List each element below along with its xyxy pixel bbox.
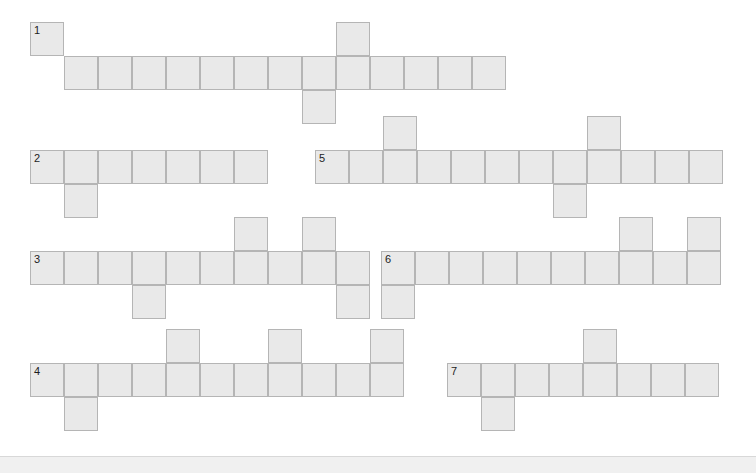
- cell-number-7: 7: [451, 365, 457, 377]
- crossword-cell[interactable]: [370, 363, 404, 397]
- bottom-status-bar: [0, 456, 756, 473]
- crossword-cell[interactable]: [417, 150, 451, 184]
- crossword-cell[interactable]: [132, 150, 166, 184]
- crossword-cell[interactable]: [585, 251, 619, 285]
- crossword-cell[interactable]: [653, 251, 687, 285]
- crossword-cell[interactable]: [438, 56, 472, 90]
- crossword-cell[interactable]: [583, 329, 617, 363]
- crossword-cell[interactable]: 2: [30, 150, 64, 184]
- crossword-cell[interactable]: [234, 150, 268, 184]
- crossword-cell[interactable]: [689, 150, 723, 184]
- crossword-cell[interactable]: [302, 90, 336, 124]
- cell-number-6: 6: [385, 253, 391, 265]
- crossword-cell[interactable]: [302, 217, 336, 251]
- crossword-cell[interactable]: [64, 397, 98, 431]
- crossword-cell[interactable]: [553, 150, 587, 184]
- crossword-cell[interactable]: [200, 150, 234, 184]
- crossword-cell[interactable]: [336, 56, 370, 90]
- crossword-cell[interactable]: [481, 397, 515, 431]
- crossword-cell[interactable]: [64, 363, 98, 397]
- crossword-cell[interactable]: [336, 363, 370, 397]
- crossword-cell[interactable]: 4: [30, 363, 64, 397]
- crossword-cell[interactable]: [302, 251, 336, 285]
- crossword-cell[interactable]: [64, 184, 98, 218]
- crossword-cell[interactable]: [98, 251, 132, 285]
- crossword-cell[interactable]: [381, 285, 415, 319]
- crossword-cell[interactable]: [132, 285, 166, 319]
- crossword-cell[interactable]: [234, 56, 268, 90]
- crossword-cell[interactable]: [64, 150, 98, 184]
- crossword-cell[interactable]: [617, 363, 651, 397]
- crossword-cell[interactable]: [383, 150, 417, 184]
- cell-number-5: 5: [319, 152, 325, 164]
- crossword-grid-canvas[interactable]: 1234567: [0, 0, 756, 456]
- crossword-cell[interactable]: 1: [30, 22, 64, 56]
- crossword-cell[interactable]: [449, 251, 483, 285]
- crossword-cell[interactable]: [166, 150, 200, 184]
- crossword-cell[interactable]: [583, 363, 617, 397]
- crossword-cell[interactable]: [370, 329, 404, 363]
- crossword-cell[interactable]: 5: [315, 150, 349, 184]
- crossword-cell[interactable]: [234, 363, 268, 397]
- crossword-cell[interactable]: [98, 56, 132, 90]
- crossword-cell[interactable]: [485, 150, 519, 184]
- crossword-cell[interactable]: [483, 251, 517, 285]
- crossword-cell[interactable]: [64, 251, 98, 285]
- crossword-cell[interactable]: [587, 116, 621, 150]
- crossword-cell[interactable]: [268, 363, 302, 397]
- crossword-cell[interactable]: [302, 56, 336, 90]
- crossword-cell[interactable]: [64, 56, 98, 90]
- crossword-cell[interactable]: [234, 251, 268, 285]
- crossword-cell[interactable]: 7: [447, 363, 481, 397]
- crossword-cell[interactable]: [166, 251, 200, 285]
- crossword-cell[interactable]: [132, 251, 166, 285]
- crossword-cell[interactable]: [515, 363, 549, 397]
- crossword-cell[interactable]: [687, 251, 721, 285]
- crossword-cell[interactable]: [132, 56, 166, 90]
- crossword-cell[interactable]: [370, 56, 404, 90]
- crossword-cell[interactable]: [349, 150, 383, 184]
- crossword-cell[interactable]: [651, 363, 685, 397]
- crossword-app: 1234567: [0, 0, 756, 473]
- crossword-cell[interactable]: [517, 251, 551, 285]
- crossword-cell[interactable]: [619, 217, 653, 251]
- crossword-cell[interactable]: [98, 150, 132, 184]
- crossword-cell[interactable]: [268, 251, 302, 285]
- crossword-cell[interactable]: 3: [30, 251, 64, 285]
- crossword-cell[interactable]: [268, 56, 302, 90]
- crossword-cell[interactable]: [98, 363, 132, 397]
- crossword-cell[interactable]: [687, 217, 721, 251]
- crossword-cell[interactable]: [415, 251, 449, 285]
- crossword-cell[interactable]: [655, 150, 689, 184]
- crossword-cell[interactable]: [587, 150, 621, 184]
- crossword-cell[interactable]: [621, 150, 655, 184]
- crossword-cell[interactable]: [166, 56, 200, 90]
- crossword-cell[interactable]: [619, 251, 653, 285]
- cell-number-4: 4: [34, 365, 40, 377]
- crossword-cell[interactable]: [166, 329, 200, 363]
- crossword-cell[interactable]: [336, 22, 370, 56]
- cell-number-2: 2: [34, 152, 40, 164]
- crossword-cell[interactable]: [551, 251, 585, 285]
- crossword-cell[interactable]: [383, 116, 417, 150]
- crossword-cell[interactable]: [553, 184, 587, 218]
- crossword-cell[interactable]: [472, 56, 506, 90]
- crossword-cell[interactable]: [200, 251, 234, 285]
- crossword-cell[interactable]: [481, 363, 515, 397]
- crossword-cell[interactable]: [404, 56, 438, 90]
- crossword-cell[interactable]: [166, 363, 200, 397]
- crossword-cell[interactable]: [200, 56, 234, 90]
- crossword-cell[interactable]: [200, 363, 234, 397]
- crossword-cell[interactable]: [549, 363, 583, 397]
- crossword-cell[interactable]: [451, 150, 485, 184]
- crossword-cell[interactable]: [336, 251, 370, 285]
- crossword-cell[interactable]: [336, 285, 370, 319]
- crossword-cell[interactable]: [519, 150, 553, 184]
- crossword-cell[interactable]: [268, 329, 302, 363]
- crossword-cell[interactable]: [132, 363, 166, 397]
- crossword-cell[interactable]: [685, 363, 719, 397]
- cell-number-1: 1: [34, 24, 40, 36]
- crossword-cell[interactable]: [234, 217, 268, 251]
- crossword-cell[interactable]: [302, 363, 336, 397]
- crossword-cell[interactable]: 6: [381, 251, 415, 285]
